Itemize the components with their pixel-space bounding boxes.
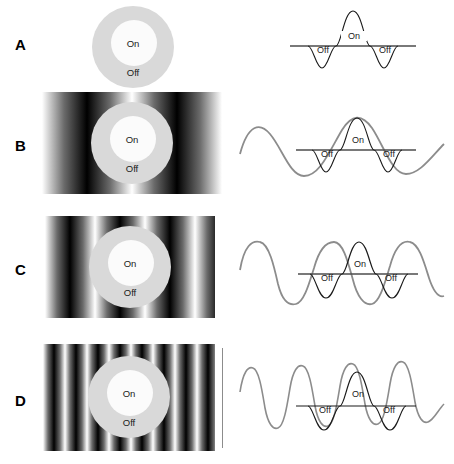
- wave-left-label-d: Off: [312, 405, 338, 415]
- grating-stimulus-d: On Off: [43, 344, 215, 451]
- wave-center-label-d: On: [345, 389, 371, 399]
- wave-right-label-b: Off: [376, 149, 402, 159]
- panel-letter-b: B: [15, 137, 26, 154]
- response-profile-b: On Off Off: [238, 104, 446, 188]
- wave-left-label-b: Off: [314, 149, 340, 159]
- panel-d: D On Off On Off Off: [0, 344, 454, 459]
- grating-sine-curve-b: [240, 118, 444, 176]
- rf-profile-svg-b: [238, 104, 446, 188]
- panel-b: B On Off On Off Off: [0, 92, 454, 204]
- mexican-hat-curve-b: [312, 118, 402, 172]
- receptive-field-a: On Off: [92, 6, 174, 88]
- grating-stimulus-c: On Off: [45, 216, 215, 318]
- rf-surround-label-a: Off: [92, 67, 174, 78]
- wave-left-label-c: Off: [314, 273, 340, 283]
- rf-profile-svg-d: [238, 356, 446, 444]
- wave-right-label-d: Off: [376, 405, 402, 415]
- wave-center-label-c: On: [347, 259, 373, 269]
- rf-center-label-c: On: [89, 258, 171, 269]
- wave-right-label-c: Off: [378, 273, 404, 283]
- panel-letter-d: D: [15, 392, 26, 409]
- response-profile-c: On Off Off: [238, 228, 446, 312]
- response-profile-d: On Off Off: [238, 356, 446, 444]
- panel-c: C On Off On Off Off: [0, 216, 454, 328]
- rf-surround-label-d: Off: [88, 417, 170, 428]
- panel-divider-d: [222, 348, 223, 448]
- wave-right-label-a: Off: [372, 45, 398, 55]
- panel-letter-a: A: [15, 36, 26, 53]
- rf-profile-svg-c: [238, 228, 446, 312]
- mexican-hat-curve-c: [310, 242, 408, 298]
- grating-sine-curve-c: [240, 242, 444, 305]
- rf-surround-label-b: Off: [91, 163, 173, 174]
- wave-left-label-a: Off: [310, 45, 336, 55]
- rf-profile-svg-a: [288, 6, 418, 84]
- rf-center-label-d: On: [88, 388, 170, 399]
- panel-a: A On Off On Off Off: [0, 0, 454, 92]
- rf-center-label-a: On: [92, 38, 174, 49]
- figure-container: A On Off On Off Off B On Off: [0, 0, 454, 464]
- wave-center-label-b: On: [345, 135, 371, 145]
- response-profile-a: On Off Off: [288, 6, 418, 84]
- panel-letter-c: C: [15, 261, 26, 278]
- rf-center-label-b: On: [91, 134, 173, 145]
- grating-sine-curve-d: [240, 362, 444, 429]
- grating-stimulus-b: On Off: [42, 92, 222, 194]
- wave-center-label-a: On: [341, 31, 367, 41]
- rf-surround-label-c: Off: [89, 287, 171, 298]
